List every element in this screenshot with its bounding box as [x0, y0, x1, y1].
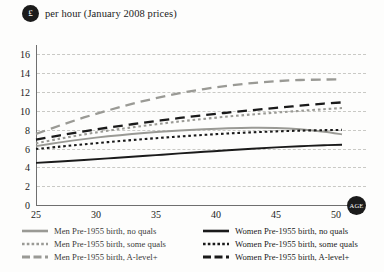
- y-tick-label: 4: [25, 162, 30, 173]
- legend-item[interactable]: Men Pre-1955 birth, no quals: [22, 224, 166, 237]
- legend-item-label: Women Pre-1955 birth, some quals: [235, 239, 358, 249]
- plot-area: 0246810121416 253035404550: [36, 45, 366, 205]
- x-tick-label: 30: [91, 209, 101, 220]
- x-axis-line: [36, 205, 366, 206]
- x-tick-label: 35: [151, 209, 161, 220]
- legend-item-label: Men Pre-1955 birth, A-level+: [54, 252, 158, 262]
- y-tick-label: 8: [25, 124, 30, 135]
- legend-item[interactable]: Women Pre-1955 birth, A-level+: [203, 250, 358, 263]
- y-tick-label: 6: [25, 143, 30, 154]
- legend-line-swatch-icon: [203, 226, 229, 236]
- x-tick-label: 40: [211, 209, 221, 220]
- legend-line-swatch-icon: [203, 252, 229, 262]
- chart-title: £ per hour (January 2008 prices): [22, 4, 177, 22]
- series-line: [36, 128, 342, 146]
- series-line: [36, 79, 342, 134]
- y-tick-label: 10: [20, 105, 30, 116]
- legend-column-men: Men Pre-1955 birth, no qualsMen Pre-1955…: [22, 224, 166, 263]
- x-tick-label: 45: [271, 209, 281, 220]
- legend-item-label: Women Pre-1955 birth, no quals: [235, 226, 348, 236]
- series-line: [36, 145, 342, 163]
- y-tick-label: 0: [25, 200, 30, 211]
- x-tick-label: 50: [331, 209, 341, 220]
- series-lines: [36, 45, 366, 205]
- legend-line-swatch-icon: [22, 252, 48, 262]
- legend-item[interactable]: Men Pre-1955 birth, some quals: [22, 237, 166, 250]
- legend-item-label: Men Pre-1955 birth, no quals: [54, 226, 156, 236]
- y-tick-label: 16: [20, 49, 30, 60]
- legend-item[interactable]: Women Pre-1955 birth, no quals: [203, 224, 358, 237]
- y-tick-label: 14: [20, 68, 30, 79]
- legend-line-swatch-icon: [22, 226, 48, 236]
- legend-item-label: Women Pre-1955 birth, A-level+: [235, 252, 350, 262]
- x-tick-label: 25: [31, 209, 41, 220]
- series-line: [36, 108, 342, 143]
- currency-badge-icon: £: [22, 5, 39, 22]
- legend-line-swatch-icon: [203, 239, 229, 249]
- y-tick-label: 12: [20, 87, 30, 98]
- legend-item[interactable]: Men Pre-1955 birth, A-level+: [22, 250, 166, 263]
- chart-legend: Men Pre-1955 birth, no qualsMen Pre-1955…: [0, 224, 384, 270]
- y-tick-label: 2: [25, 181, 30, 192]
- age-axis-badge: AGE: [347, 196, 366, 215]
- legend-item[interactable]: Women Pre-1955 birth, some quals: [203, 237, 358, 250]
- legend-item-label: Men Pre-1955 birth, some quals: [54, 239, 166, 249]
- legend-column-women: Women Pre-1955 birth, no qualsWomen Pre-…: [203, 224, 358, 263]
- chart-title-text: per hour (January 2008 prices): [45, 8, 177, 19]
- legend-line-swatch-icon: [22, 239, 48, 249]
- chart-page: £ per hour (January 2008 prices) 0246810…: [0, 0, 384, 272]
